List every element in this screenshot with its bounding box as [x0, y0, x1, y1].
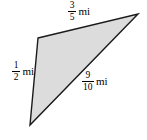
- fraction-nine-tenths: 9 10: [82, 71, 94, 92]
- side-label-left: 1 2 mi: [12, 61, 34, 82]
- fraction-denominator: 10: [82, 82, 94, 92]
- side-label-top: 3 5 mi: [68, 1, 90, 22]
- fraction-three-fifths: 3 5: [68, 1, 76, 22]
- unit-label: mi: [96, 76, 108, 87]
- fraction-numerator: 1: [13, 61, 20, 71]
- unit-label: mi: [23, 66, 35, 77]
- fraction-denominator: 5: [69, 12, 76, 22]
- fraction-denominator: 2: [13, 72, 20, 82]
- triangle-figure: 3 5 mi 1 2 mi 9 10 mi: [0, 0, 147, 140]
- fraction-numerator: 3: [69, 1, 76, 11]
- fraction-numerator: 9: [84, 71, 91, 81]
- triangle-polygon: [30, 14, 138, 125]
- side-label-diagonal: 9 10 mi: [82, 71, 108, 92]
- fraction-one-half: 1 2: [12, 61, 20, 82]
- unit-label: mi: [79, 6, 91, 17]
